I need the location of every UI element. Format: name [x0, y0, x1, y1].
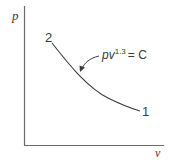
- pv-diagram: p v 2 1 pv1.3= C: [0, 0, 169, 163]
- y-axis-label: p: [11, 8, 19, 23]
- equation-base: pv: [101, 48, 116, 62]
- equation-label: pv1.3= C: [101, 47, 147, 62]
- annotation-arrow: [82, 56, 99, 69]
- polytropic-curve: [52, 43, 140, 111]
- equation-rhs: = C: [128, 48, 147, 62]
- arrowhead-icon: [80, 66, 86, 73]
- x-axis-label: v: [155, 146, 161, 160]
- equation-exponent: 1.3: [115, 47, 127, 56]
- point-2-label: 2: [45, 30, 52, 45]
- point-1-label: 1: [142, 104, 149, 119]
